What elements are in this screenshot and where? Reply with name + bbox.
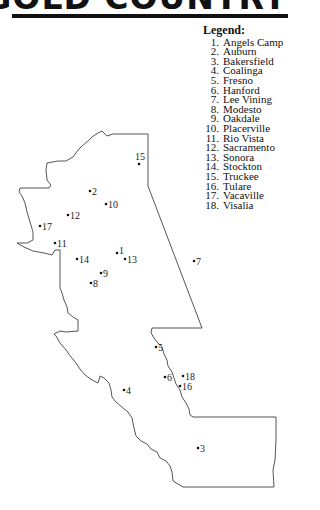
city-dot-icon xyxy=(155,346,158,349)
city-dot-icon xyxy=(138,163,141,166)
legend-item-number: 18. xyxy=(203,201,219,211)
city-marker: 10 xyxy=(105,199,118,210)
city-marker: 13 xyxy=(124,254,137,265)
city-label: 14 xyxy=(79,254,89,265)
legend-list: 1.Angels Camp2.Auburn3.Bakersfield4.Coal… xyxy=(203,38,294,211)
city-marker: 16 xyxy=(179,381,192,392)
city-label: 15 xyxy=(135,151,145,162)
legend-item: 18.Visalia xyxy=(203,201,294,211)
city-marker: 3 xyxy=(197,443,205,454)
city-label: 7 xyxy=(196,256,201,267)
city-label: 9 xyxy=(103,268,108,279)
city-marker: 15 xyxy=(135,151,145,165)
city-dot-icon xyxy=(182,375,185,378)
city-marker: 8 xyxy=(90,278,98,289)
city-marker: 4 xyxy=(123,385,131,396)
city-dot-icon xyxy=(197,447,200,450)
city-dot-icon xyxy=(39,225,42,228)
city-label: 17 xyxy=(42,221,52,232)
city-dot-icon xyxy=(105,203,108,206)
city-label: 10 xyxy=(108,199,118,210)
city-dot-icon xyxy=(67,214,70,217)
city-dot-icon xyxy=(116,252,119,255)
city-marker: 17 xyxy=(39,221,52,232)
city-label: 12 xyxy=(70,210,80,221)
city-marker: 11 xyxy=(54,238,67,249)
legend-title: Legend: xyxy=(203,26,294,36)
city-marker: 12 xyxy=(67,210,80,221)
city-label: 3 xyxy=(200,443,205,454)
city-dot-icon xyxy=(76,258,79,261)
city-dot-icon xyxy=(123,389,126,392)
city-dot-icon xyxy=(124,258,127,261)
legend-item-name: Visalia xyxy=(223,201,254,211)
city-dot-icon xyxy=(164,376,167,379)
city-dot-icon xyxy=(89,190,92,193)
city-label: 13 xyxy=(127,254,137,265)
city-marker: 9 xyxy=(100,268,108,279)
legend: Legend: 1.Angels Camp2.Auburn3.Bakersfie… xyxy=(203,26,294,210)
city-marker: 6 xyxy=(164,372,172,383)
city-label: 5 xyxy=(158,342,163,353)
city-marker: 14 xyxy=(76,254,89,265)
city-label: 6 xyxy=(167,372,172,383)
city-marker: 7 xyxy=(193,256,201,267)
city-label: 11 xyxy=(57,238,67,249)
city-marker: 1 xyxy=(116,245,124,256)
city-marker: 5 xyxy=(155,342,163,353)
city-label: 4 xyxy=(126,385,131,396)
city-dot-icon xyxy=(100,272,103,275)
city-label: 8 xyxy=(93,278,98,289)
city-dot-icon xyxy=(193,260,196,263)
city-dot-icon xyxy=(54,242,57,245)
city-label: 16 xyxy=(182,381,192,392)
city-label: 2 xyxy=(92,186,97,197)
city-dot-icon xyxy=(90,282,93,285)
city-label: 1 xyxy=(119,245,124,256)
city-dot-icon xyxy=(179,385,182,388)
city-marker: 2 xyxy=(89,186,97,197)
